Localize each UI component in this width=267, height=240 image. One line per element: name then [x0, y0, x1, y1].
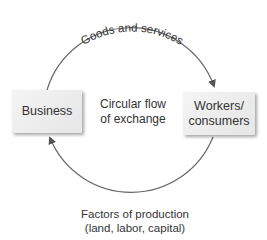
business-label: Business: [22, 104, 73, 119]
goods-arrow: [47, 28, 214, 90]
workers-label: Workers/: [194, 99, 244, 114]
goods-and-services-label: Goods and services: [79, 21, 186, 47]
bottom-label-line1: Factors of production: [60, 207, 210, 221]
business-node: Business: [12, 90, 82, 133]
factors-arrow: [50, 137, 213, 192]
center-label-line2: of exchange: [95, 112, 171, 127]
workers-consumers-node: Workers/ consumers: [183, 92, 255, 135]
consumers-label: consumers: [188, 114, 249, 129]
factors-of-production-label: Factors of production (land, labor, capi…: [60, 207, 210, 235]
center-label-line1: Circular flow: [95, 97, 171, 112]
circular-flow-label: Circular flow of exchange: [95, 97, 171, 127]
bottom-label-line2: (land, labor, capital): [60, 221, 210, 235]
